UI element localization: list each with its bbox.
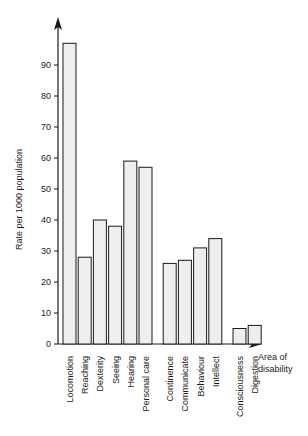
- bar: [109, 226, 122, 344]
- bar: [163, 263, 176, 344]
- y-tick-label: 10: [41, 308, 51, 318]
- x-axis-category-label: Seeing: [111, 356, 121, 384]
- bar: [93, 220, 106, 344]
- x-axis-category-label: Behaviour: [196, 356, 206, 397]
- x-axis-category-label: Consciousness: [235, 356, 245, 418]
- x-axis-title-line2: disability: [258, 364, 293, 374]
- y-axis: [54, 17, 62, 344]
- x-axis-category-label: Intellect: [211, 356, 221, 388]
- y-axis-ticks: 0102030405060708090: [41, 60, 58, 349]
- bar-chart-figure: 0102030405060708090 LocomotionReachingDe…: [0, 0, 308, 436]
- y-tick-label: 90: [41, 60, 51, 70]
- bar: [124, 161, 137, 344]
- bar: [78, 257, 91, 344]
- x-axis-category-label: Personal care: [141, 356, 151, 412]
- x-axis-category-label: Hearing: [126, 356, 136, 388]
- bar: [194, 248, 207, 344]
- y-tick-label: 30: [41, 246, 51, 256]
- y-tick-label: 40: [41, 215, 51, 225]
- y-tick-label: 20: [41, 277, 51, 287]
- bar-series: [63, 43, 261, 344]
- x-axis-title-line1: Area of: [258, 352, 288, 362]
- x-axis-category-label: Dexterity: [95, 356, 105, 392]
- y-tick-label: 80: [41, 91, 51, 101]
- x-axis-category-label: Communicate: [180, 356, 190, 412]
- bar: [233, 329, 246, 345]
- bar: [248, 325, 261, 344]
- bar: [209, 239, 222, 344]
- bar: [178, 260, 191, 344]
- y-axis-title: Rate per 1000 population: [14, 149, 24, 250]
- bar: [139, 167, 152, 344]
- y-tick-label: 0: [46, 339, 51, 349]
- x-axis-category-labels: LocomotionReachingDexteritySeeingHearing…: [65, 356, 260, 418]
- chart-canvas: 0102030405060708090 LocomotionReachingDe…: [0, 0, 308, 436]
- y-tick-label: 70: [41, 122, 51, 132]
- x-axis-category-label: Continence: [165, 356, 175, 402]
- y-tick-label: 60: [41, 153, 51, 163]
- y-tick-label: 50: [41, 184, 51, 194]
- x-axis-category-label: Reaching: [80, 356, 90, 394]
- x-axis-category-label: Locomotion: [65, 356, 75, 403]
- bar: [63, 43, 76, 344]
